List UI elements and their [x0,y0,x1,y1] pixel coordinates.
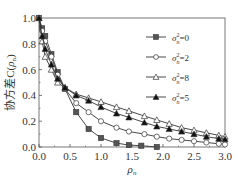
x-tick-label: 1.5 [125,150,139,162]
y-tick-label: 0.0 [22,141,36,153]
x-tick-label: 3.0 [218,150,232,162]
legend-item: σ2n=5 [146,92,190,105]
legend-item: σ2n=0 [146,32,190,45]
x-tick-label: 1.0 [94,150,108,162]
x-tick-label: 2.5 [187,150,201,162]
y-tick-label: 0.2 [22,115,36,127]
x-tick-label: 0.5 [63,150,77,162]
legend-item: σ2n=2 [146,52,189,65]
legend-label: σ2n=2 [172,52,189,65]
y-tick-label: 1.0 [22,12,36,24]
legend-label: σ2n=0 [172,32,190,45]
y-axis-label: 协方差C(ρn) [3,54,18,111]
x-axis-label: ρn [127,163,137,177]
y-tick-label: 0.4 [22,89,36,101]
series-filled-square [36,15,159,149]
legend-label: σ2n=8 [172,72,190,85]
x-tick-label: 2.0 [156,150,170,162]
plot-frame: 0.00.51.01.52.02.53.00.00.20.40.60.81.0ρ… [3,12,232,177]
plot-border [39,18,225,147]
data-series [36,15,228,150]
covariance-chart: 0.00.51.01.52.02.53.00.00.20.40.60.81.0ρ… [0,0,238,187]
y-tick-label: 0.6 [22,64,36,76]
legend-label: σ2n=5 [172,92,190,105]
series-open-triangle [36,15,228,139]
series-open-circle [36,15,227,147]
legend: σ2n=0σ2n=2σ2n=8σ2n=5 [146,32,190,105]
y-tick-label: 0.8 [22,38,36,50]
legend-item: σ2n=8 [146,72,190,85]
series-filled-triangle [36,15,228,142]
